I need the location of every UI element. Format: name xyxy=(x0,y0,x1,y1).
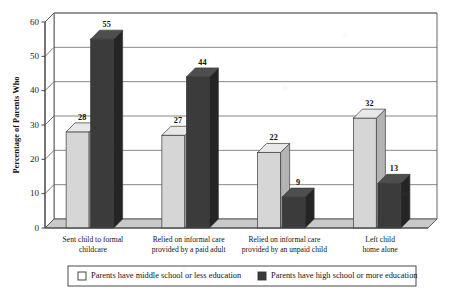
bar-front-face xyxy=(258,152,281,228)
bar-value-label: 28 xyxy=(78,113,86,122)
bar-value-label: 22 xyxy=(270,133,278,142)
category-label-1: Relied on informal care xyxy=(153,235,226,244)
category-label-3: Left child xyxy=(365,235,395,244)
category-labels: Sent child to formalchildcareRelied on i… xyxy=(63,235,399,254)
bar-series-1-cat-2 xyxy=(282,188,314,228)
bar-series-1-cat-0 xyxy=(91,30,123,228)
y-tick-label: 50 xyxy=(30,51,40,61)
bar-front-face xyxy=(91,39,114,228)
category-label-0: Sent child to formal xyxy=(63,235,124,244)
y-tick-label: 30 xyxy=(30,120,40,130)
y-tick-label: 10 xyxy=(30,188,40,198)
bar-value-label: 55 xyxy=(103,20,111,29)
bar-front-face xyxy=(186,77,209,228)
bar-value-label: 32 xyxy=(365,99,373,108)
bar-series-1-cat-3 xyxy=(378,174,410,228)
bar-side-face xyxy=(114,30,123,228)
bar-side-face xyxy=(209,68,218,228)
category-label-1: provided by a paid adult xyxy=(152,245,227,254)
bar-front-face xyxy=(66,132,89,228)
bar-value-label: 13 xyxy=(390,164,398,173)
bar-value-label: 27 xyxy=(174,116,182,125)
bar-front-face xyxy=(162,135,185,228)
bar-front-face xyxy=(282,197,305,228)
legend: Parents have middle school or less educa… xyxy=(68,266,418,286)
bar-series-1-cat-1 xyxy=(186,68,218,228)
y-axis-title: Percentage of Parents Who xyxy=(12,77,21,174)
category-label-3: home alone xyxy=(363,245,399,254)
y-tick-label: 0 xyxy=(35,223,40,233)
bar-front-face xyxy=(378,183,401,228)
legend-swatch-1 xyxy=(258,272,266,280)
legend-label-1: Parents have high school or more educati… xyxy=(271,271,418,280)
y-tick-label: 60 xyxy=(30,17,40,27)
category-label-2: Relied on informal care xyxy=(248,235,321,244)
category-label-2: provided by an unpaid child xyxy=(242,245,327,254)
legend-swatch-0 xyxy=(78,272,86,280)
chart-canvas: 0102030405060Percentage of Parents Who28… xyxy=(0,0,460,294)
bar-chart: 0102030405060Percentage of Parents Who28… xyxy=(0,0,460,294)
legend-label-0: Parents have middle school or less educa… xyxy=(91,271,242,280)
category-label-0: childcare xyxy=(79,245,107,254)
bar-value-label: 9 xyxy=(296,178,300,187)
y-tick-label: 20 xyxy=(30,154,40,164)
bar-front-face xyxy=(353,118,376,228)
y-tick-label: 40 xyxy=(30,85,40,95)
bar-value-label: 44 xyxy=(198,58,206,67)
